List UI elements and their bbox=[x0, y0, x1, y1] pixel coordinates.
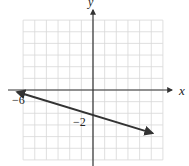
y-intercept-label: −2 bbox=[73, 115, 86, 129]
y-axis-label: y bbox=[87, 0, 94, 9]
x-intercept-label: −6 bbox=[12, 93, 25, 107]
x-axis-label: x bbox=[178, 83, 185, 98]
coordinate-plane: x y −6 −2 bbox=[0, 0, 189, 166]
